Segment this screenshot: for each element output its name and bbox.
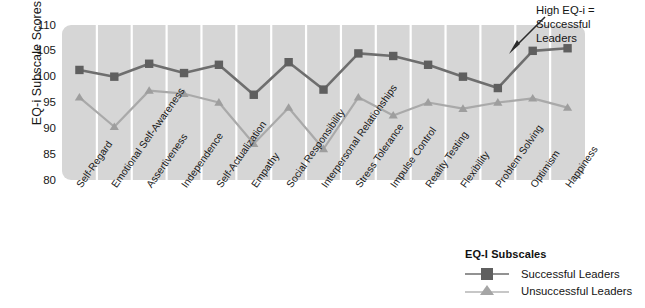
data-point xyxy=(145,60,153,68)
legend-key-triangle-icon xyxy=(465,283,509,299)
data-point xyxy=(75,66,83,74)
data-point xyxy=(494,84,502,92)
data-point xyxy=(250,91,258,99)
legend-title: EQ-I Subscales xyxy=(465,248,645,260)
data-point xyxy=(215,61,223,69)
data-point xyxy=(75,93,84,101)
y-tick-85: 85 xyxy=(22,149,56,161)
y-tick-90: 90 xyxy=(22,123,56,135)
y-tick-110: 110 xyxy=(22,20,56,32)
data-point xyxy=(180,69,188,77)
data-point xyxy=(424,61,432,69)
y-tick-95: 95 xyxy=(22,97,56,109)
y-tick-80: 80 xyxy=(22,175,56,187)
legend: EQ-I Subscales Successful Leaders Unsucc… xyxy=(465,248,645,299)
y-tick-105: 105 xyxy=(22,45,56,57)
high-eqi-annotation: High EQ-i = Successful Leaders xyxy=(536,4,595,45)
legend-key-square-icon xyxy=(465,266,509,282)
legend-label-unsuccessful: Unsuccessful Leaders xyxy=(521,285,632,297)
data-point xyxy=(284,58,292,66)
legend-label-successful: Successful Leaders xyxy=(521,268,620,280)
data-point xyxy=(529,47,537,55)
legend-item-unsuccessful: Unsuccessful Leaders xyxy=(465,282,645,299)
data-point xyxy=(354,93,363,101)
legend-item-successful: Successful Leaders xyxy=(465,265,645,282)
data-point xyxy=(424,98,433,106)
eq-i-subscale-chart: EQ-i Subscale Scores 80859095100105110 S… xyxy=(0,0,645,308)
y-tick-100: 100 xyxy=(22,71,56,83)
data-point xyxy=(459,72,467,80)
data-point xyxy=(389,52,397,60)
data-point xyxy=(354,49,362,57)
data-point xyxy=(110,72,118,80)
data-point xyxy=(284,103,293,111)
data-point xyxy=(319,85,327,93)
